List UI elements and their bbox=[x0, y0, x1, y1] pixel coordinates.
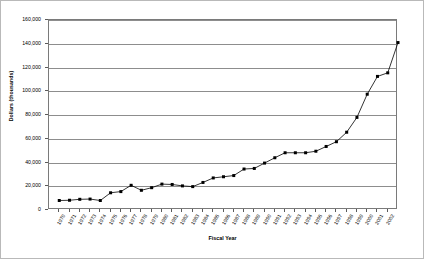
data-point-marker bbox=[355, 116, 358, 119]
data-point-marker bbox=[171, 183, 174, 186]
x-axis-title: Fiscal Year bbox=[48, 235, 397, 241]
x-tick-mark bbox=[99, 209, 100, 212]
data-point-marker bbox=[201, 181, 204, 184]
data-point-marker bbox=[58, 199, 61, 202]
x-tick-mark bbox=[387, 209, 388, 212]
data-series-line bbox=[49, 20, 398, 210]
data-point-marker bbox=[314, 150, 317, 153]
data-point-marker bbox=[109, 191, 112, 194]
data-point-marker bbox=[325, 145, 328, 148]
y-tick-label: 120,000 bbox=[22, 64, 41, 70]
x-tick-mark bbox=[233, 209, 234, 212]
x-tick-mark bbox=[89, 209, 90, 212]
x-tick-mark bbox=[212, 209, 213, 212]
x-tick-mark bbox=[274, 209, 275, 212]
y-tick-label: 140,000 bbox=[22, 40, 41, 46]
x-tick-mark bbox=[58, 209, 59, 212]
chart-figure: Dollars (thousands) 020,00040,00060,0008… bbox=[0, 0, 424, 259]
data-point-marker bbox=[181, 184, 184, 187]
data-point-marker bbox=[294, 151, 297, 154]
data-point-marker bbox=[212, 176, 215, 179]
data-point-marker bbox=[222, 175, 225, 178]
y-axis-title-label: Dollars (thousands) bbox=[8, 71, 14, 122]
x-tick-mark bbox=[69, 209, 70, 212]
data-point-marker bbox=[335, 140, 338, 143]
y-tick-label: 80,000 bbox=[25, 111, 41, 117]
x-tick-mark bbox=[140, 209, 141, 212]
plot-area bbox=[48, 19, 397, 209]
y-tick-label: 0 bbox=[38, 206, 41, 212]
x-tick-mark bbox=[161, 209, 162, 212]
data-point-marker bbox=[263, 162, 266, 165]
x-tick-mark bbox=[223, 209, 224, 212]
y-tick-label: 40,000 bbox=[25, 159, 41, 165]
data-point-marker bbox=[304, 151, 307, 154]
data-point-marker bbox=[99, 199, 102, 202]
y-tick-label: 60,000 bbox=[25, 135, 41, 141]
data-point-marker bbox=[243, 168, 246, 171]
x-tick-mark bbox=[243, 209, 244, 212]
data-point-marker bbox=[273, 156, 276, 159]
x-tick-mark bbox=[366, 209, 367, 212]
y-axis-title: Dollars (thousands) bbox=[5, 1, 17, 191]
x-tick-mark bbox=[202, 209, 203, 212]
data-point-marker bbox=[191, 185, 194, 188]
data-point-marker bbox=[345, 131, 348, 134]
data-point-marker bbox=[376, 75, 379, 78]
series-markers bbox=[58, 41, 400, 202]
data-point-marker bbox=[160, 183, 163, 186]
y-tick-mark bbox=[45, 209, 48, 210]
data-point-marker bbox=[89, 198, 92, 201]
x-tick-mark bbox=[171, 209, 172, 212]
x-tick-mark bbox=[315, 209, 316, 212]
data-point-marker bbox=[366, 93, 369, 96]
data-point-marker bbox=[386, 71, 389, 74]
x-tick-mark bbox=[346, 209, 347, 212]
y-tick-label: 160,000 bbox=[22, 16, 41, 22]
x-tick-mark bbox=[151, 209, 152, 212]
x-tick-mark bbox=[356, 209, 357, 212]
x-tick-mark bbox=[120, 209, 121, 212]
y-tick-label: 20,000 bbox=[25, 182, 41, 188]
data-point-marker bbox=[150, 186, 153, 189]
data-point-marker bbox=[130, 184, 133, 187]
x-tick-mark bbox=[130, 209, 131, 212]
x-tick-mark bbox=[294, 209, 295, 212]
x-tick-mark bbox=[110, 209, 111, 212]
y-tick-label: 100,000 bbox=[22, 87, 41, 93]
x-tick-mark bbox=[181, 209, 182, 212]
x-tick-mark bbox=[192, 209, 193, 212]
x-tick-mark bbox=[264, 209, 265, 212]
data-point-marker bbox=[232, 174, 235, 177]
data-point-marker bbox=[68, 199, 71, 202]
x-tick-mark bbox=[376, 209, 377, 212]
x-tick-mark bbox=[305, 209, 306, 212]
x-tick-mark bbox=[79, 209, 80, 212]
data-point-marker bbox=[397, 41, 400, 44]
x-tick-mark bbox=[335, 209, 336, 212]
data-point-marker bbox=[253, 167, 256, 170]
data-point-marker bbox=[119, 190, 122, 193]
data-point-marker bbox=[284, 151, 287, 154]
x-tick-mark bbox=[325, 209, 326, 212]
data-point-marker bbox=[78, 198, 81, 201]
x-tick-mark bbox=[284, 209, 285, 212]
x-tick-mark bbox=[253, 209, 254, 212]
data-point-marker bbox=[140, 189, 143, 192]
series-polyline bbox=[59, 43, 398, 201]
